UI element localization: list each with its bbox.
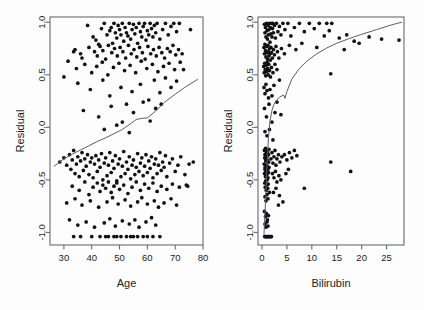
data-point bbox=[108, 217, 112, 221]
data-point bbox=[283, 52, 287, 56]
data-point bbox=[337, 36, 341, 40]
data-point bbox=[132, 23, 136, 27]
data-point bbox=[278, 25, 282, 29]
data-point bbox=[118, 187, 122, 191]
data-point bbox=[272, 155, 276, 159]
data-point bbox=[122, 39, 126, 43]
data-point bbox=[112, 21, 116, 25]
data-point bbox=[121, 50, 125, 54]
data-point bbox=[281, 21, 285, 25]
data-points bbox=[58, 21, 195, 238]
data-point bbox=[289, 34, 293, 38]
data-point bbox=[329, 72, 333, 76]
panel-age: 3040506070801.00.50.0-0.5-1.0AgeResidual bbox=[0, 0, 212, 310]
data-point bbox=[271, 172, 275, 176]
data-point bbox=[98, 165, 102, 169]
data-point bbox=[106, 73, 110, 77]
x-tick-label: 30 bbox=[59, 252, 70, 263]
data-point bbox=[136, 200, 140, 204]
data-point bbox=[380, 37, 384, 41]
data-point bbox=[115, 235, 119, 239]
data-point bbox=[83, 180, 87, 184]
data-point bbox=[120, 219, 124, 223]
data-point bbox=[277, 153, 281, 157]
data-point bbox=[127, 222, 131, 226]
data-point bbox=[130, 90, 134, 94]
data-point bbox=[139, 161, 143, 165]
data-point bbox=[168, 161, 172, 165]
data-point bbox=[152, 78, 156, 82]
data-point bbox=[263, 107, 267, 111]
data-point bbox=[115, 123, 119, 127]
data-point bbox=[176, 163, 180, 167]
smoother-curve bbox=[54, 80, 197, 167]
data-point bbox=[161, 28, 165, 32]
data-point bbox=[263, 92, 267, 96]
y-axis-title: Residual bbox=[222, 110, 234, 153]
y-tick-label: 0.0 bbox=[244, 121, 255, 134]
data-point bbox=[94, 154, 98, 158]
data-point bbox=[187, 162, 191, 166]
data-point bbox=[87, 193, 91, 197]
y-tick-label: 0.5 bbox=[36, 68, 47, 81]
data-point bbox=[182, 68, 186, 72]
data-point bbox=[100, 60, 104, 64]
data-point bbox=[88, 199, 92, 203]
data-point bbox=[183, 173, 187, 177]
data-point bbox=[161, 160, 165, 164]
data-point bbox=[169, 25, 173, 29]
data-point bbox=[175, 79, 179, 83]
data-point bbox=[87, 173, 91, 177]
data-point bbox=[130, 163, 134, 167]
data-point bbox=[105, 33, 109, 37]
data-point bbox=[293, 26, 297, 30]
x-tick-label: 80 bbox=[198, 252, 209, 263]
data-point bbox=[91, 185, 95, 189]
data-point bbox=[141, 174, 145, 178]
data-point bbox=[139, 189, 143, 193]
data-point bbox=[266, 182, 270, 186]
data-point bbox=[107, 163, 111, 167]
data-point bbox=[135, 55, 139, 59]
data-point bbox=[84, 164, 88, 168]
data-point bbox=[68, 218, 72, 222]
x-axis-title: Bilirubin bbox=[311, 277, 350, 289]
data-point bbox=[315, 46, 319, 50]
data-point bbox=[79, 52, 83, 56]
data-point bbox=[152, 162, 156, 166]
data-point bbox=[88, 160, 92, 164]
y-tick-label: 0.5 bbox=[244, 68, 255, 81]
data-point bbox=[171, 182, 175, 186]
data-points bbox=[262, 21, 401, 238]
data-point bbox=[269, 75, 273, 79]
data-point bbox=[173, 68, 177, 72]
data-point bbox=[62, 75, 66, 79]
data-point bbox=[397, 38, 401, 42]
data-point bbox=[143, 21, 147, 25]
data-point bbox=[327, 29, 331, 33]
data-point bbox=[154, 31, 158, 35]
data-point bbox=[76, 155, 80, 159]
data-point bbox=[151, 35, 155, 39]
data-point bbox=[178, 185, 182, 189]
data-point bbox=[143, 57, 147, 61]
data-point bbox=[90, 235, 94, 239]
data-point bbox=[117, 61, 121, 65]
data-point bbox=[273, 111, 277, 115]
data-point bbox=[114, 31, 118, 35]
data-point bbox=[133, 173, 137, 177]
data-point bbox=[275, 157, 279, 161]
data-point bbox=[132, 48, 136, 52]
data-point bbox=[110, 51, 114, 55]
data-point bbox=[112, 166, 116, 170]
data-point bbox=[75, 162, 79, 166]
data-point bbox=[146, 202, 150, 206]
data-point bbox=[80, 151, 84, 155]
data-point bbox=[265, 220, 269, 224]
data-point bbox=[66, 59, 70, 63]
data-point bbox=[162, 65, 166, 69]
data-point bbox=[165, 175, 169, 179]
data-point bbox=[159, 184, 163, 188]
data-point bbox=[105, 200, 109, 204]
data-point bbox=[129, 37, 133, 41]
